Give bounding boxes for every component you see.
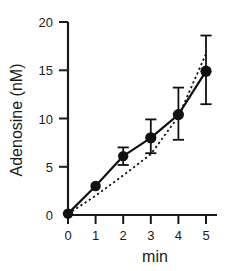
x-tick-label-3: 3 [147,228,154,243]
x-tick-label-0: 0 [64,228,71,243]
x-tick-label-4: 4 [175,228,182,243]
data-point-x0 [63,208,73,218]
y-tick-label-20: 20 [39,15,53,30]
x-tick-label-1: 1 [92,228,99,243]
solid-series-line [68,71,206,213]
adenosine-time-course-chart: 20 15 10 5 0 0 1 2 3 4 5 min Adenosine (… [0,0,230,271]
y-tick-label-5: 5 [46,160,53,175]
data-point-x5 [200,66,211,77]
data-point-x1 [90,181,100,191]
y-tick-label-0: 0 [46,208,53,223]
data-point-x4 [173,109,184,120]
y-tick-label-15: 15 [39,63,53,78]
y-tick-label-10: 10 [39,112,53,127]
y-axis-title: Adenosine (nM) [8,64,25,177]
x-tick-label-2: 2 [120,228,127,243]
x-tick-label-5: 5 [202,228,209,243]
dotted-series-line [68,54,206,214]
chart-canvas: 20 15 10 5 0 0 1 2 3 4 5 min Adenosine (… [0,0,230,271]
x-axis-title: min [142,248,168,265]
data-point-x3 [145,132,156,143]
data-point-x2 [118,151,128,161]
